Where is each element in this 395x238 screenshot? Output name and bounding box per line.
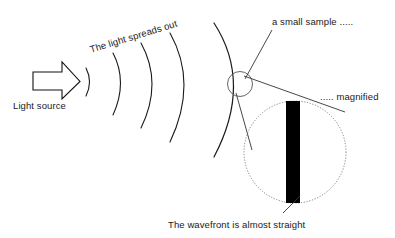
horn-emitter-icon [33, 62, 80, 99]
small-sample-circle-icon [228, 72, 253, 97]
label-wavefront-almost-straight: The wavefront is almost straight [168, 219, 305, 230]
wavefront-arc-4 [170, 33, 184, 142]
physics-diagram: Light source The light spreads out a sma… [0, 0, 395, 238]
small-sample-leader-line [245, 30, 272, 79]
wavefront-arc-2 [113, 53, 121, 115]
label-magnified: ..... magnified [320, 91, 379, 102]
magnification-cone-lower-line [236, 93, 252, 150]
wavefront-arc-1 [86, 68, 90, 96]
wavefront-arc-5 [214, 23, 234, 157]
diagram-canvas [0, 0, 395, 238]
label-light-source: Light source [13, 100, 66, 111]
wavefront-arc-3 [141, 43, 152, 128]
label-a-small-sample: a small sample ..... [272, 16, 353, 27]
horn-emitter-shape [33, 62, 80, 99]
straight-wavefront-bar-icon [286, 101, 300, 203]
